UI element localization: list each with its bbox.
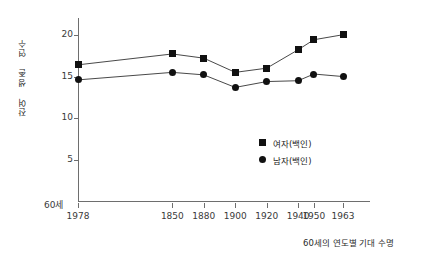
x-tick-label: 1950	[302, 211, 325, 221]
x-tick-mark	[298, 203, 299, 208]
x-tick-mark	[78, 203, 79, 208]
legend-square-icon	[259, 139, 266, 146]
data-point	[295, 46, 302, 53]
data-point	[200, 55, 207, 62]
series-line-1	[78, 35, 343, 73]
legend-label: 여자(백인)	[273, 137, 312, 149]
x-tick-mark	[172, 203, 173, 208]
y-tick-label: 20	[62, 29, 73, 39]
y-axis-label: 잔여 생존 연수	[17, 38, 29, 116]
data-point	[232, 69, 239, 76]
x-tick-mark	[204, 203, 205, 208]
legend-label: 남자(백인)	[273, 154, 312, 166]
y-tick-label: 10	[62, 112, 73, 122]
y-axis-label-container: 잔여 생존 연수	[10, 22, 36, 132]
x-tick-label: 1900	[224, 211, 247, 221]
series-line-2	[78, 72, 343, 87]
series-lines	[78, 18, 370, 202]
y-tick-label: 15	[62, 71, 73, 81]
x-tick-mark	[314, 203, 315, 208]
x-tick-mark	[235, 203, 236, 208]
data-point	[169, 69, 176, 76]
data-point	[75, 61, 82, 68]
x-tick-label: 1978	[67, 211, 90, 221]
x-tick-mark	[343, 203, 344, 208]
chart-legend: 여자(백인)남자(백인)	[259, 134, 312, 168]
legend-item: 남자(백인)	[259, 151, 312, 168]
data-point	[169, 50, 176, 57]
x-tick-label: 1920	[255, 211, 278, 221]
x-tick-label: 1963	[332, 211, 355, 221]
legend-item: 여자(백인)	[259, 134, 312, 151]
legend-circle-icon	[259, 156, 266, 163]
data-point	[310, 71, 317, 78]
x-tick-mark	[267, 203, 268, 208]
x-tick-label: 1850	[161, 211, 184, 221]
data-point	[75, 76, 82, 83]
y-axis-origin-label: 60세	[44, 198, 63, 211]
x-axis-label: 60세의 연도별 기대 수명	[303, 236, 394, 248]
data-point	[295, 77, 302, 84]
data-point	[232, 84, 239, 91]
data-point	[310, 36, 317, 43]
y-tick-label: 5	[67, 154, 73, 164]
data-point	[340, 31, 347, 38]
data-point	[263, 65, 270, 72]
plot-area: 5101520 19781850188019001920194019501963	[78, 18, 370, 202]
x-tick-label: 1880	[192, 211, 215, 221]
data-point	[340, 73, 347, 80]
chart-figure: 잔여 생존 연수 5101520 19781850188019001920194…	[0, 0, 425, 271]
